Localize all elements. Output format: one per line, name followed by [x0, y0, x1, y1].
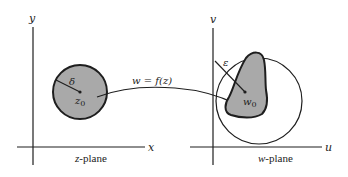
- conformal-mapping-diagram: y x δ z0 z-plane w = f(z) v u ε w0 w-pla…: [0, 0, 348, 177]
- mapping-arrow: [97, 87, 236, 104]
- mapping-label: w = f(z): [132, 75, 172, 86]
- z-plane-caption: z-plane: [74, 152, 107, 164]
- z0-point: [78, 90, 81, 93]
- w-plane-caption: w-plane: [258, 152, 293, 164]
- v-axis-label: v: [210, 13, 217, 26]
- z0-subscript: 0: [80, 99, 85, 108]
- y-axis-label: y: [28, 12, 36, 25]
- delta-label: δ: [69, 76, 75, 87]
- epsilon-label: ε: [223, 57, 228, 68]
- x-axis-label: x: [148, 141, 155, 154]
- w0-point: [243, 90, 246, 93]
- u-axis-label: u: [325, 141, 332, 154]
- w0-subscript: 0: [252, 100, 257, 109]
- image-region: [226, 53, 268, 118]
